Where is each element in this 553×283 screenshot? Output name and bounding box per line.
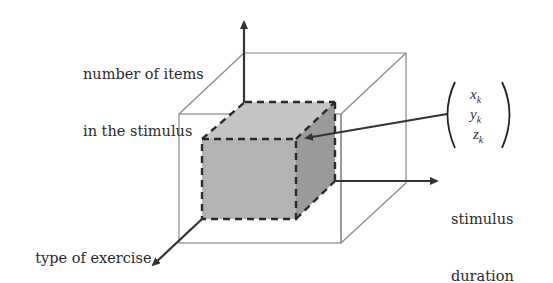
right-paren — [502, 82, 510, 148]
vector-component-y: yk — [470, 106, 481, 125]
depth-axis-label: type of exercise — [26, 230, 151, 268]
vertical-axis-label-line2: in the stimulus — [83, 122, 204, 141]
horizontal-axis-label-line2: duration — [451, 267, 514, 283]
vector-component-z: zk — [473, 126, 483, 145]
left-paren — [448, 82, 456, 148]
horizontal-axis-label-line1: stimulus — [451, 210, 514, 229]
depth-axis-arrow — [153, 219, 202, 265]
vertical-axis-label-line1: number of items — [83, 65, 204, 84]
depth-axis-label-text: type of exercise — [35, 250, 151, 266]
inner-cube — [202, 102, 335, 219]
vector-component-x: xk — [470, 86, 481, 105]
horizontal-axis-label: stimulus duration — [451, 172, 514, 283]
vertical-axis-label: number of items in the stimulus — [83, 27, 204, 160]
